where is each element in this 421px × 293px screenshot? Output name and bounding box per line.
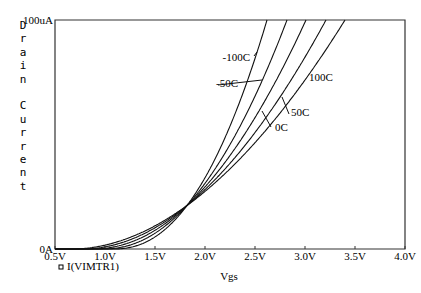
annotation-label: 50C <box>291 106 309 118</box>
x-tick-label: 2.5V <box>244 250 266 262</box>
curve-0C <box>55 20 306 249</box>
y-tick-top: 100uA <box>23 14 53 26</box>
x-axis-label: Vgs <box>220 270 238 282</box>
curve-100C <box>55 20 345 249</box>
x-tick-label: 3.5V <box>344 250 366 262</box>
curve--50C <box>55 20 287 249</box>
legend-marker-icon <box>59 265 63 269</box>
annotation-label: -100C <box>223 51 251 63</box>
chart-canvas: 0.5V1.0V1.5V2.0V2.5V3.0V3.5V4.0V -100C-5… <box>0 0 421 293</box>
annotations: -100C-50C100C50C0C <box>216 51 333 133</box>
curves <box>55 20 345 249</box>
legend-label: I(VIMTR1) <box>67 260 119 273</box>
annotation-label: 100C <box>309 71 333 83</box>
y-tick-bottom: 0A <box>40 243 54 255</box>
annotation-label: 0C <box>275 121 288 133</box>
curve-50C <box>55 20 326 249</box>
x-tick-label: 1.5V <box>144 250 166 262</box>
x-tick-label: 3.0V <box>294 250 316 262</box>
x-tick-label: 2.0V <box>194 250 216 262</box>
x-tick-label: 4.0V <box>394 250 416 262</box>
